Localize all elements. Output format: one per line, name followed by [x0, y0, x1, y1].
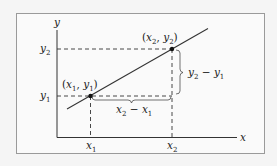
diagram-canvas: y x y2 y1 x1 x2 (x1, y1) (x2, y2) x2 − x…: [0, 0, 277, 166]
frame-border: [17, 14, 265, 154]
y-axis-label: y: [53, 16, 61, 28]
point-2: [170, 47, 174, 51]
x-axis-label: x: [240, 131, 246, 143]
slope-diagram: y x y2 y1 x1 x2 (x1, y1) (x2, y2) x2 − x…: [0, 0, 277, 166]
